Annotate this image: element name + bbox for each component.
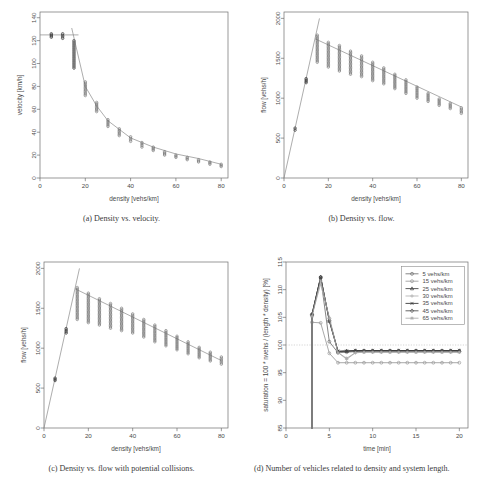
panel-d: 05101520time [min]859095100105110115satu… <box>240 250 479 499</box>
y-tick-label: 500 <box>274 132 281 143</box>
x-tick-label: 10 <box>369 432 376 439</box>
y-tick-label: 20 <box>30 151 37 158</box>
x-axis-label: density [vehs/km] <box>351 195 401 203</box>
x-tick-label: 0 <box>38 182 42 189</box>
y-tick-label: 2000 <box>274 11 281 25</box>
x-axis: 020406080density [vehs/km] <box>38 178 225 203</box>
data-points <box>50 33 222 168</box>
y-tick-label: 0 <box>30 176 37 180</box>
marker-star <box>410 316 414 320</box>
panel-a: 020406080density [vehs/km]02040608010012… <box>0 0 239 249</box>
marker-star <box>414 350 417 353</box>
x-tick-label: 80 <box>218 432 225 439</box>
panel-c: 020406080density [vehs/km]05001000150020… <box>0 250 239 499</box>
data-marker <box>380 350 383 353</box>
plot-frame <box>44 262 228 428</box>
data-marker <box>388 350 391 353</box>
data-marker <box>328 317 331 320</box>
fit-line <box>315 39 461 107</box>
fit-line <box>72 28 221 164</box>
legend-label: 30 vehs/km <box>423 293 453 299</box>
x-tick-label: 20 <box>325 182 332 189</box>
fit-lines <box>284 18 461 178</box>
y-tick-label: 140 <box>30 12 37 23</box>
y-tick-label: 115 <box>276 257 283 267</box>
y-axis: 0500100015002000flow [vehs/h] <box>20 261 44 430</box>
marker-star <box>423 350 426 353</box>
marker-star <box>328 317 331 320</box>
marker-star <box>388 350 391 353</box>
marker-star <box>432 350 435 353</box>
caption-a: (a) Density vs. velocity. <box>14 214 229 224</box>
legend: 5 vehs/km15 vehs/km25 vehs/km30 vehs/km3… <box>402 267 465 325</box>
x-tick-label: 40 <box>369 182 376 189</box>
data-marker <box>414 350 417 353</box>
x-tick-label: 20 <box>456 432 463 439</box>
y-tick-label: 100 <box>276 339 283 350</box>
x-axis-label: density [vehs/km] <box>111 445 161 453</box>
data-marker <box>406 350 409 353</box>
y-tick-label: 1500 <box>274 51 281 65</box>
legend-label: 5 vehs/km <box>423 271 450 277</box>
legend-label: 15 vehs/km <box>423 278 453 284</box>
y-axis-label: velocity [km/h] <box>16 75 24 116</box>
plot-saturation-vs-time: 05101520time [min]859095100105110115satu… <box>240 250 479 462</box>
marker-star <box>397 350 400 353</box>
marker-star <box>362 350 365 353</box>
plot-frame <box>284 12 468 178</box>
caption-b: (b) Density vs. flow. <box>254 214 469 224</box>
x-tick-label: 15 <box>413 432 420 439</box>
y-tick-label: 80 <box>30 82 37 89</box>
y-tick-label: 500 <box>34 382 41 393</box>
marker-star <box>310 314 313 317</box>
fit-lines <box>40 28 221 164</box>
data-marker <box>458 350 461 353</box>
marker-star <box>319 279 322 282</box>
x-tick-label: 0 <box>42 432 46 439</box>
plot-density-vs-velocity: 020406080density [vehs/km]02040608010012… <box>0 0 239 212</box>
figure-grid: 020406080density [vehs/km]02040608010012… <box>0 0 479 499</box>
legend-label: 35 vehs/km <box>423 300 453 306</box>
y-tick-label: 85 <box>276 424 283 431</box>
y-tick-label: 110 <box>276 284 283 294</box>
plot-box <box>284 12 468 178</box>
y-tick-label: 105 <box>276 312 283 323</box>
data-marker <box>432 350 435 353</box>
marker-star <box>336 351 339 354</box>
y-tick-label: 0 <box>34 426 41 430</box>
y-axis-label: saturation = 100 * nvehs / (length * den… <box>262 278 270 412</box>
data-marker <box>310 314 313 317</box>
x-tick-label: 0 <box>284 432 288 439</box>
marker-star <box>458 350 461 353</box>
fit-line <box>284 18 319 178</box>
y-tick-label: 100 <box>30 58 37 69</box>
x-tick-label: 0 <box>282 182 286 189</box>
plot-density-vs-flow-collisions: 020406080density [vehs/km]05001000150020… <box>0 250 239 462</box>
marker-star <box>449 350 452 353</box>
y-tick-label: 1000 <box>274 91 281 105</box>
y-axis: 859095100105110115saturation = 100 * nve… <box>262 257 286 432</box>
marker-star <box>440 350 443 353</box>
data-marker <box>362 350 365 353</box>
x-tick-label: 40 <box>127 182 134 189</box>
x-tick-label: 60 <box>172 182 179 189</box>
caption-c: (c) Density vs. flow with potential coll… <box>14 464 229 474</box>
x-tick-label: 60 <box>414 182 421 189</box>
y-tick-label: 90 <box>276 396 283 403</box>
y-tick-label: 1500 <box>34 301 41 315</box>
y-axis: 0500100015002000flow [vehs/h] <box>260 11 284 180</box>
x-axis-label: density [vehs/km] <box>109 195 159 203</box>
x-tick-label: 20 <box>82 182 89 189</box>
x-tick-label: 20 <box>85 432 92 439</box>
x-tick-label: 80 <box>458 182 465 189</box>
marker-star <box>354 351 357 354</box>
marker-star <box>380 350 383 353</box>
caption-d: (d) Number of vehicles related to densit… <box>254 464 469 474</box>
legend-label: 25 vehs/km <box>423 286 453 292</box>
marker-star <box>406 350 409 353</box>
x-tick-label: 5 <box>328 432 332 439</box>
data-points <box>294 34 463 131</box>
x-axis-label: time [min] <box>363 445 391 453</box>
x-axis: 05101520time [min] <box>284 428 463 453</box>
data-marker <box>354 351 357 354</box>
